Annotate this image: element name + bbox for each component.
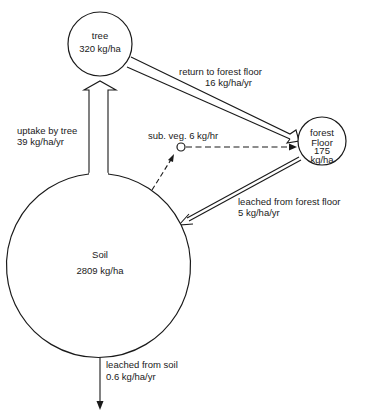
tree-node: tree 320 kg/ha: [68, 12, 132, 76]
return-value-text: 16 kg/ha/yr: [205, 77, 252, 88]
tree-name: tree: [92, 30, 108, 41]
tree-value: 320 kg/ha: [79, 43, 121, 54]
uptake-label: uptake by tree 39 kg/ha/yr: [17, 125, 77, 147]
leached-soil-label: leached from soil 0.6 kg/ha/yr: [106, 359, 178, 382]
subveg-to-floor-dashed-arrow: [186, 144, 297, 151]
soil-value: 2809 kg/ha: [76, 265, 124, 276]
forest-floor-value-2: kg/ha: [310, 154, 334, 165]
uptake-label-text: uptake by tree: [17, 125, 77, 136]
nutrient-cycle-diagram: tree 320 kg/ha forest Floor 175 kg/ha So…: [0, 0, 366, 412]
soil-node: Soil 2809 kg/ha: [7, 174, 191, 358]
leached-floor-label: leached from forest floor 5 kg/ha/yr: [238, 196, 340, 218]
leached-floor-label-text: leached from forest floor: [238, 196, 340, 207]
uptake-value-text: 39 kg/ha/yr: [17, 136, 64, 147]
sub-veg-node: sub. veg. 6 kg/hr: [148, 130, 218, 151]
soil-to-subveg-dashed-arrow: [152, 154, 174, 190]
forest-floor-node: forest Floor 175 kg/ha: [298, 117, 346, 165]
leached-floor-value-text: 5 kg/ha/yr: [238, 207, 280, 218]
uptake-arrow: [84, 81, 116, 174]
return-label: return to forest floor 16 kg/ha/yr: [179, 66, 262, 88]
soil-name: Soil: [92, 249, 108, 260]
leached-soil-arrow: [97, 354, 104, 410]
leached-soil-value-text: 0.6 kg/ha/yr: [106, 371, 156, 382]
return-label-text: return to forest floor: [179, 66, 262, 77]
leached-soil-label-text: leached from soil: [106, 359, 178, 370]
sub-veg-label: sub. veg. 6 kg/hr: [148, 130, 218, 141]
